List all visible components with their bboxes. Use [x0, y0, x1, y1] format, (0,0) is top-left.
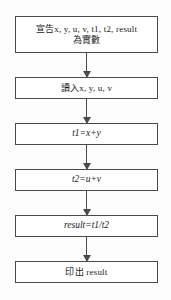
- flowchart-node-print-label: 印出 result: [65, 267, 107, 278]
- flowchart-node-t2-label: t2=u+v: [72, 174, 101, 185]
- flowchart-node-read: 讀入x, y, u, v: [15, 77, 158, 99]
- flowchart-node-declare-line1: 宣告x, y, u, v, t1, t2, result: [36, 24, 137, 35]
- flowchart-node-result: result=t1/t2: [15, 215, 158, 237]
- flowchart-node-t1-label: t1=x+y: [72, 128, 101, 139]
- flowchart-arrow-declare-to-read: [86, 53, 87, 77]
- flowchart-node-declare: 宣告x, y, u, v, t1, t2, result 為實數: [15, 16, 158, 53]
- flowchart-node-t2: t2=u+v: [15, 169, 158, 191]
- flowchart-node-t1: t1=x+y: [15, 123, 158, 145]
- flowchart-arrow-t1-to-t2: [86, 145, 87, 169]
- flowchart-arrow-result-to-print: [86, 237, 87, 261]
- flowchart-node-declare-line2: 為實數: [73, 35, 101, 46]
- flowchart-diagram: 宣告x, y, u, v, t1, t2, result 為實數 讀入x, y,…: [0, 0, 171, 300]
- flowchart-node-result-label: result=t1/t2: [64, 220, 109, 231]
- flowchart-node-print: 印出 result: [15, 261, 158, 283]
- flowchart-arrow-t2-to-result: [86, 191, 87, 215]
- flowchart-arrow-read-to-t1: [86, 99, 87, 123]
- flowchart-node-read-label: 讀入x, y, u, v: [61, 83, 112, 94]
